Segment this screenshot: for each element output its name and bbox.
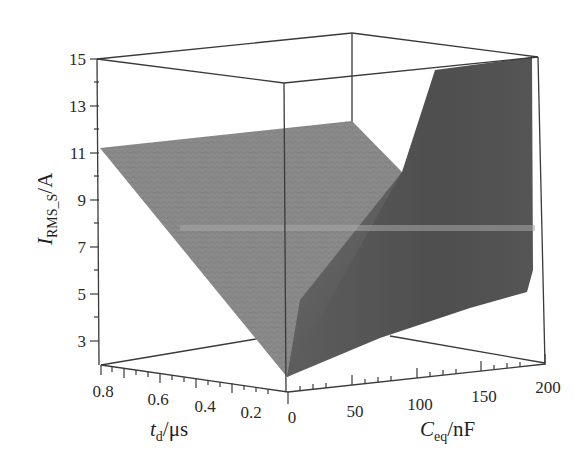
z-tick-label: 9 xyxy=(78,191,87,210)
x-tick-label: 0.6 xyxy=(147,390,168,409)
surface-plot-3d: 15 13 11 9 7 5 3 IRMS_S/A 0.8 0.6 0.4 0.… xyxy=(0,0,585,467)
y-tick-label: 150 xyxy=(471,387,497,406)
z-tick-label: 3 xyxy=(78,332,87,351)
y-tick-label: 200 xyxy=(535,378,561,397)
z-tick-label: 5 xyxy=(78,285,87,304)
y-axis-title: Ceq/nF xyxy=(420,417,475,444)
x-tick-label: 0.4 xyxy=(194,397,216,416)
z-axis: 15 13 11 9 7 5 3 xyxy=(69,50,99,351)
z-tick-label: 11 xyxy=(70,144,86,163)
z-tick-label: 7 xyxy=(78,238,87,257)
z-axis-title: IRMS_S/A xyxy=(33,172,60,246)
x-axis-td: 0.8 0.6 0.4 0.2 0 td/μs xyxy=(92,365,296,444)
z-tick-label: 15 xyxy=(69,50,86,69)
svg-text:IRMS_S/A: IRMS_S/A xyxy=(33,172,60,246)
y-tick-label: 100 xyxy=(407,395,433,414)
highlight-band xyxy=(180,225,535,231)
y-tick-label: 50 xyxy=(347,402,364,421)
surface xyxy=(100,57,535,377)
z-tick-label: 13 xyxy=(69,97,86,116)
x-axis-title: td/μs xyxy=(150,417,188,444)
y-axis-ceq: 0 50 100 150 200 Ceq/nF xyxy=(288,354,561,444)
x-tick-label: 0.8 xyxy=(92,382,113,401)
x-tick-label: 0.2 xyxy=(240,403,261,422)
